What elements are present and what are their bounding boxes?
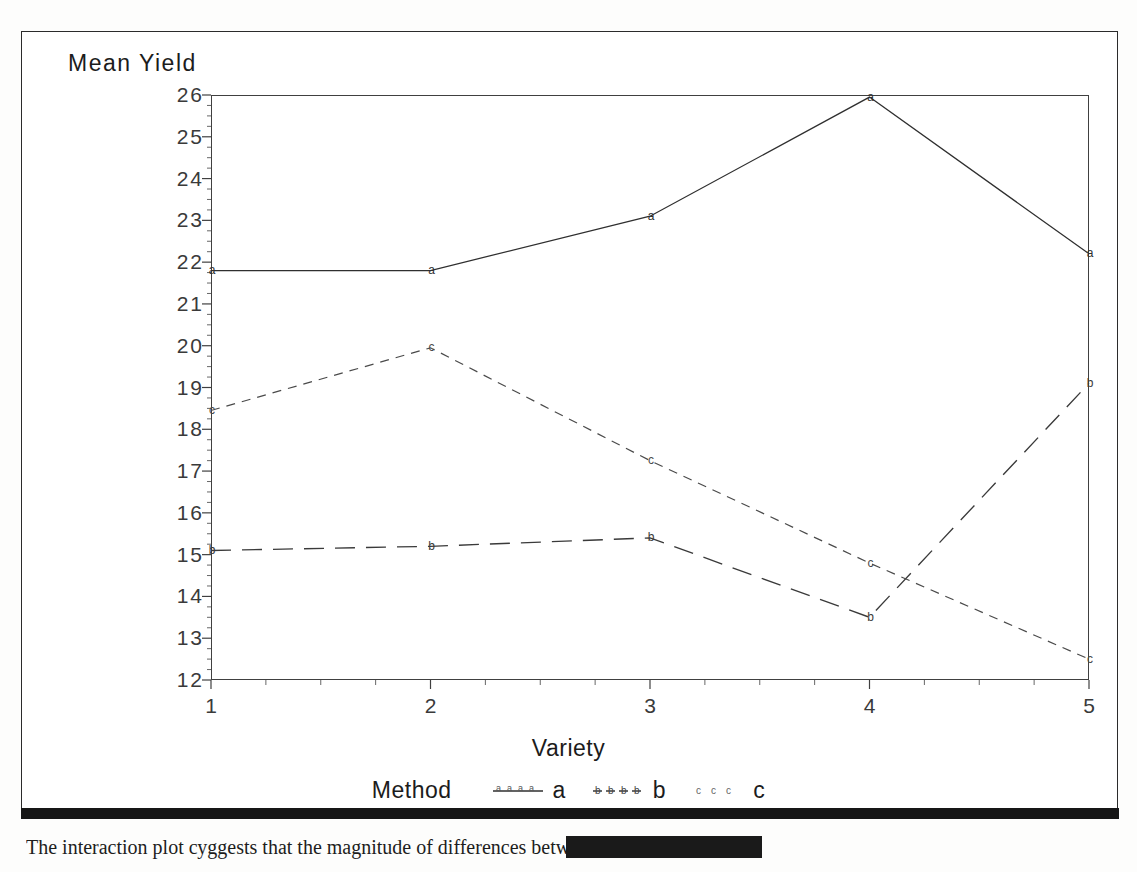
bottom-black-bar bbox=[21, 808, 1119, 819]
svg-text:a: a bbox=[507, 784, 512, 793]
y-tick-label: 20 bbox=[160, 334, 204, 358]
y-tick-label: 21 bbox=[160, 292, 204, 316]
x-axis-title: Variety bbox=[0, 735, 1137, 762]
legend-label-a: a bbox=[553, 777, 566, 804]
legend-entry-a: a a a a a bbox=[492, 777, 566, 804]
legend-label-b: b bbox=[653, 777, 666, 804]
y-tick-label: 23 bbox=[160, 208, 204, 232]
legend-swatch-a: a a a a bbox=[492, 784, 544, 798]
x-tick-label: 2 bbox=[425, 694, 437, 718]
x-tick-label: 5 bbox=[1083, 694, 1095, 718]
y-tick-label: 12 bbox=[160, 668, 204, 692]
svg-text:b: b bbox=[621, 785, 627, 796]
x-tick-label: 3 bbox=[644, 694, 656, 718]
scanned-page: Mean Yield 26252423222120191817161514131… bbox=[0, 0, 1137, 872]
y-tick-label: 26 bbox=[160, 83, 204, 107]
y-tick-label: 13 bbox=[160, 626, 204, 650]
plot-area bbox=[211, 95, 1089, 680]
svg-text:a: a bbox=[496, 784, 501, 793]
legend-swatch-b: b b b b bbox=[592, 784, 644, 798]
svg-text:c: c bbox=[696, 785, 701, 796]
y-tick-label: 15 bbox=[160, 543, 204, 567]
y-tick-label: 17 bbox=[160, 459, 204, 483]
legend-label-c: c bbox=[753, 777, 765, 804]
y-tick-label: 24 bbox=[160, 167, 204, 191]
legend-entry-b: b b b b b bbox=[592, 777, 666, 804]
caption-redaction-block bbox=[566, 836, 762, 858]
svg-text:b: b bbox=[634, 785, 640, 796]
svg-text:a: a bbox=[518, 784, 523, 793]
y-tick-label: 16 bbox=[160, 501, 204, 525]
svg-text:b: b bbox=[608, 785, 614, 796]
legend-title: Method bbox=[372, 777, 452, 804]
svg-text:b: b bbox=[595, 785, 601, 796]
x-tick-label: 1 bbox=[205, 694, 217, 718]
y-tick-label: 18 bbox=[160, 417, 204, 441]
y-tick-label: 25 bbox=[160, 125, 204, 149]
y-tick-label: 22 bbox=[160, 250, 204, 274]
y-tick-label: 14 bbox=[160, 584, 204, 608]
x-tick-label: 4 bbox=[864, 694, 876, 718]
y-tick-label: 19 bbox=[160, 376, 204, 400]
svg-text:a: a bbox=[529, 784, 534, 793]
legend-entry-c: c c c c bbox=[692, 777, 765, 804]
legend-swatch-c: c c c bbox=[692, 784, 744, 798]
legend: Method a a a a a b b b b b c c bbox=[0, 777, 1137, 804]
svg-text:c: c bbox=[726, 785, 731, 796]
svg-text:c: c bbox=[711, 785, 716, 796]
